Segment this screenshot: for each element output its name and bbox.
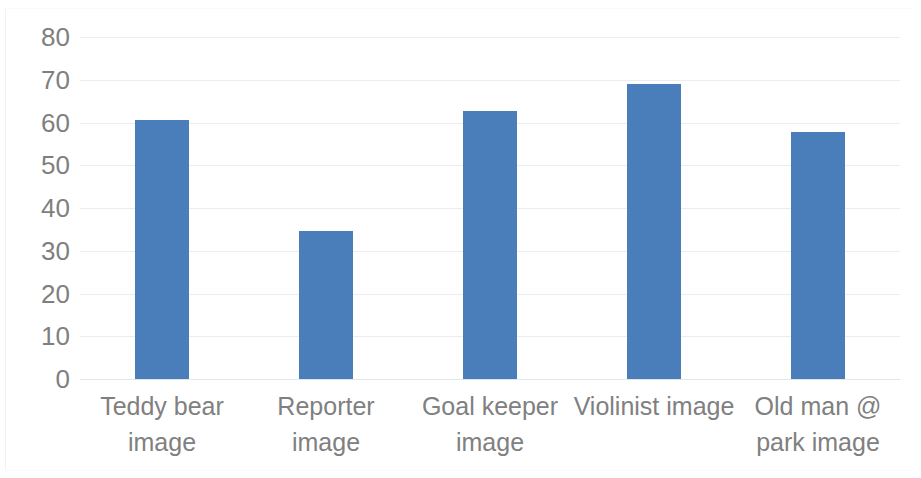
bar[interactable] xyxy=(463,111,517,379)
x-axis-category-label: Goal keeper image xyxy=(408,388,572,460)
x-axis-category-label: Violinist image xyxy=(572,388,736,424)
bar-slot xyxy=(408,37,572,379)
y-axis-tick-label: 0 xyxy=(0,366,70,392)
y-axis-tick-label: 70 xyxy=(0,67,70,93)
bar[interactable] xyxy=(299,231,353,379)
gridline-0 xyxy=(80,379,900,380)
y-axis-tick-label: 50 xyxy=(0,152,70,178)
bar[interactable] xyxy=(135,120,189,379)
bar-slot xyxy=(244,37,408,379)
bar[interactable] xyxy=(791,132,845,379)
y-axis-tick-label: 60 xyxy=(0,110,70,136)
bar[interactable] xyxy=(627,84,681,379)
y-axis-tick-label: 30 xyxy=(0,238,70,264)
bar-series xyxy=(80,37,900,379)
bar-slot xyxy=(572,37,736,379)
bar-chart: 80706050403020100 Teddy bear imageReport… xyxy=(0,0,921,478)
x-axis: Teddy bear imageReporter imageGoal keepe… xyxy=(80,388,900,472)
bar-slot xyxy=(80,37,244,379)
y-axis-tick-label: 80 xyxy=(0,24,70,50)
x-axis-category-label: Reporter image xyxy=(244,388,408,460)
y-axis: 80706050403020100 xyxy=(0,37,70,379)
y-axis-tick-label: 20 xyxy=(0,281,70,307)
y-axis-tick-label: 40 xyxy=(0,195,70,221)
x-axis-category-label: Teddy bear image xyxy=(80,388,244,460)
y-axis-tick-label: 10 xyxy=(0,323,70,349)
chart-frame-top-border xyxy=(5,8,913,9)
x-axis-category-label: Old man @ park image xyxy=(736,388,900,460)
bar-slot xyxy=(736,37,900,379)
